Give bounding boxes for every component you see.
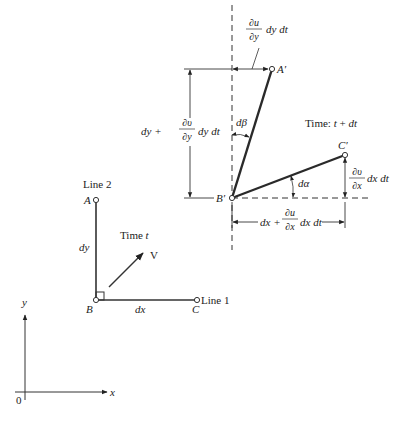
d-alpha-arc [291,176,293,197]
point-A-prime-label: A′ [276,63,287,75]
line-1-label: Line 1 [201,294,229,306]
y-axis-label: y [21,296,27,308]
point-A [93,197,98,202]
time-t-label: Time t [120,229,150,241]
point-B-prime [229,195,234,200]
svg-text:dx +: dx + [260,216,281,228]
svg-text:∂u: ∂u [249,17,259,28]
point-C-prime [342,152,347,157]
line-B-prime-C-prime [232,155,345,198]
x-axis-label: x [109,386,115,398]
point-A-prime [269,66,274,71]
svg-text:∂y: ∂y [249,31,259,42]
dy-label: dy [79,241,90,253]
coordinate-axes: y x 0 [15,296,115,406]
point-B [93,297,98,302]
svg-text:∂υ: ∂υ [182,117,192,128]
svg-text:dx dt: dx dt [367,172,390,184]
svg-text:∂x: ∂x [285,221,295,232]
svg-text:∂u: ∂u [285,207,295,218]
point-B-label: B [86,303,93,315]
dv-dx-term-label: ∂υ ∂x dx dt [349,166,390,191]
svg-text:∂υ: ∂υ [352,166,362,177]
element-time-t: Line 2 A B C Line 1 dy dx Time t V [79,178,229,315]
point-C-prime-label: C′ [338,139,348,151]
fluid-element-diagram: y x 0 Line 2 A B C Line 1 dy dx Time t V… [0,0,406,424]
point-A-label: A [83,194,91,206]
svg-text:dy dt: dy dt [198,125,221,137]
line-A-prime-B-prime [232,69,272,198]
time-t-dt-label: Time: t + dt [305,117,358,129]
point-B-prime-label: B′ [216,192,226,204]
svg-text:dx dt: dx dt [300,216,323,228]
point-C-label: C [192,303,200,315]
d-beta-arc [232,134,249,137]
svg-text:∂y: ∂y [182,131,192,142]
velocity-arrow [109,253,143,287]
dx-label: dx [135,303,146,315]
svg-text:∂x: ∂x [352,180,362,191]
point-C [194,297,199,302]
velocity-label: V [150,249,158,261]
origin-label: 0 [16,394,22,406]
du-dy-term-label: ∂u ∂y dy dt [246,17,289,42]
svg-text:dy dt: dy dt [266,23,289,35]
du-dy-leader-line [252,48,259,69]
element-time-t-dt: A′ B′ C′ Time: t + dt ∂u ∂y dy dt dy + ∂… [140,5,390,250]
d-beta-label: dβ [236,116,248,128]
d-alpha-label: dα [298,177,310,189]
line-2-label: Line 2 [83,178,111,190]
svg-text:dy +: dy + [141,125,162,137]
